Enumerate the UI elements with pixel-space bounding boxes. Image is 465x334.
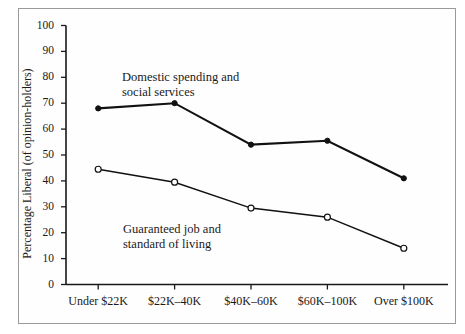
y-axis-tick-label: 90 [28, 45, 54, 57]
x-axis-tick-label: Over $100K [349, 295, 459, 307]
line-chart-plot [0, 0, 465, 334]
data-point-marker [172, 101, 177, 106]
series-line-0 [98, 103, 404, 178]
chart-figure: 0102030405060708090100 Under $22K$22K–40… [0, 0, 465, 334]
data-point-marker [401, 176, 406, 181]
data-point-marker [248, 205, 254, 211]
series-label-domestic-line2: social services [122, 85, 239, 100]
series-label-guaranteed-line1: Guaranteed job and [123, 222, 221, 237]
data-point-marker [324, 214, 330, 220]
y-axis-tick-label: 100 [28, 20, 54, 32]
data-point-marker [248, 142, 253, 147]
series-label-domestic-spending: Domestic spending and social services [122, 70, 239, 100]
data-point-marker [96, 106, 101, 111]
series-label-domestic-line1: Domestic spending and [122, 70, 239, 85]
data-point-marker [95, 166, 101, 172]
y-axis-tick-label: 0 [28, 279, 54, 291]
series-label-guaranteed-job: Guaranteed job and standard of living [123, 222, 221, 252]
data-point-marker [172, 179, 178, 185]
y-axis-title: Percentage Liberal (of opinion-holders) [20, 64, 35, 264]
data-point-marker [401, 245, 407, 251]
data-point-marker [325, 138, 330, 143]
series-label-guaranteed-line2: standard of living [123, 237, 221, 252]
